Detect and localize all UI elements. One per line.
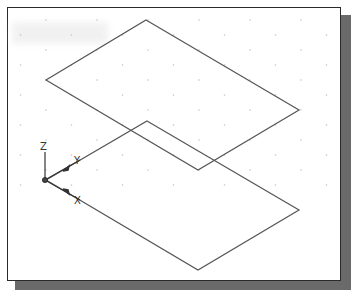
y-axis-label: Y — [73, 155, 81, 166]
grid-dots — [20, 19, 328, 186]
drawing-canvas[interactable]: Z Y X — [0, 0, 354, 292]
x-axis-label: X — [74, 195, 81, 206]
ucs-origin-icon — [42, 177, 47, 182]
upper-rectangle[interactable] — [46, 20, 299, 170]
lower-rectangle[interactable] — [46, 121, 299, 270]
z-axis-label: Z — [40, 141, 47, 152]
x-arrow-icon — [63, 189, 69, 194]
y-arrow-icon — [63, 166, 69, 171]
ucs-icon: Z Y X — [40, 141, 81, 206]
